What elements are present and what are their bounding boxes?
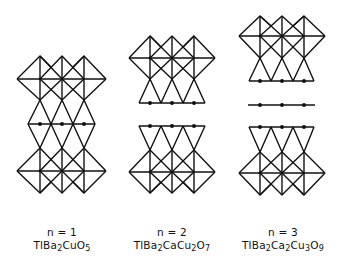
formula: TlBa2CuO5 (6, 239, 118, 252)
top-octahedra-layer (239, 16, 325, 58)
formula-part: Cu (291, 239, 305, 251)
bottom-octahedra-layer (239, 152, 325, 195)
formula-part: CuO (62, 239, 85, 251)
bottom-octahedra-layer (17, 148, 106, 193)
bottom-octahedra-layer (129, 150, 215, 193)
formula-part: O (197, 239, 205, 251)
formula-part: TlBa (134, 239, 158, 251)
formula-part: TlBa (33, 239, 57, 251)
formula-part: TlBa (242, 239, 266, 251)
label-n1: n = 1 TlBa2CuO5 (6, 226, 118, 252)
structure-n1 (17, 56, 106, 193)
pyramid-layer-bottom (139, 126, 205, 150)
formula-sub: 5 (85, 244, 90, 253)
formula-part: CaCu (163, 239, 192, 251)
pyramid-layer-top (139, 79, 205, 103)
top-octahedra-layer (17, 56, 106, 100)
formula-part: Ca (271, 239, 285, 251)
top-octahedra-layer (129, 36, 215, 79)
structure-n3 (239, 16, 325, 195)
n-value: n = 2 (116, 226, 228, 239)
formula-sub: 9 (319, 244, 324, 253)
pyramid-layer-top (249, 58, 314, 81)
formula: TlBa2CaCu2O7 (116, 239, 228, 252)
n-value: n = 3 (224, 226, 342, 239)
label-n2: n = 2 TlBa2CaCu2O7 (116, 226, 228, 252)
formula-sub: 7 (205, 244, 210, 253)
formula: TlBa2Ca2Cu3O9 (224, 239, 342, 252)
structure-n2 (129, 36, 215, 193)
n-value: n = 1 (6, 226, 118, 239)
label-n3: n = 3 TlBa2Ca2Cu3O9 (224, 226, 342, 252)
formula-part: O (310, 239, 318, 251)
pyramid-layer-bottom (249, 127, 314, 152)
